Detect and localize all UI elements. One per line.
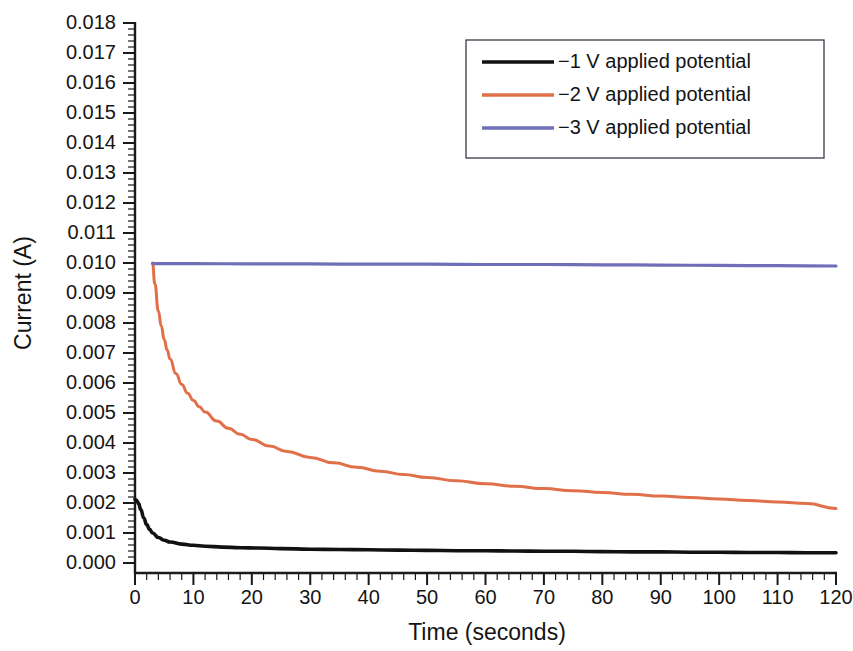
legend-label-1: −1 V applied potential (558, 50, 751, 72)
y-tick-label: 0.012 (66, 191, 116, 213)
y-tick-label: 0.016 (66, 71, 116, 93)
y-tick-label: 0.001 (66, 521, 116, 543)
x-tick-label: 0 (129, 586, 140, 608)
x-tick-label: 20 (241, 586, 263, 608)
x-tick-label: 10 (182, 586, 204, 608)
y-tick-label: 0.015 (66, 101, 116, 123)
y-tick-label: 0.005 (66, 401, 116, 423)
x-tick-label: 40 (358, 586, 380, 608)
chart-figure: 0.0000.0010.0020.0030.0040.0050.0060.007… (0, 0, 853, 651)
y-tick-label: 0.009 (66, 281, 116, 303)
y-tick-label: 0.000 (66, 551, 116, 573)
y-tick-label: 0.006 (66, 371, 116, 393)
chart-legend: −1 V applied potential−2 V applied poten… (466, 40, 824, 158)
x-tick-label: 60 (474, 586, 496, 608)
legend-label-2: −2 V applied potential (558, 83, 751, 105)
y-tick-label: 0.011 (67, 221, 116, 243)
y-tick-label: 0.002 (66, 491, 116, 513)
x-tick-label: 110 (762, 586, 794, 608)
x-tick-label: 120 (819, 586, 852, 608)
x-tick-label: 100 (702, 586, 735, 608)
y-tick-label: 0.007 (66, 341, 116, 363)
x-axis-title: Time (seconds) (408, 619, 566, 645)
x-tick-label: 70 (533, 586, 555, 608)
legend-label-3: −3 V applied potential (558, 116, 751, 138)
y-tick-label: 0.004 (66, 431, 116, 453)
y-axis-title: Current (A) (10, 236, 36, 350)
y-tick-label: 0.018 (66, 11, 116, 33)
x-tick-label: 80 (591, 586, 613, 608)
y-tick-label: 0.014 (66, 131, 116, 153)
y-tick-label: 0.013 (66, 161, 116, 183)
y-tick-label: 0.008 (66, 311, 116, 333)
y-tick-label: 0.003 (66, 461, 116, 483)
y-tick-label: 0.010 (66, 251, 116, 273)
x-tick-label: 30 (299, 586, 321, 608)
y-tick-label: 0.017 (66, 41, 116, 63)
x-tick-label: 50 (416, 586, 438, 608)
current-vs-time-chart: 0.0000.0010.0020.0030.0040.0050.0060.007… (0, 0, 853, 651)
x-tick-label: 90 (650, 586, 672, 608)
